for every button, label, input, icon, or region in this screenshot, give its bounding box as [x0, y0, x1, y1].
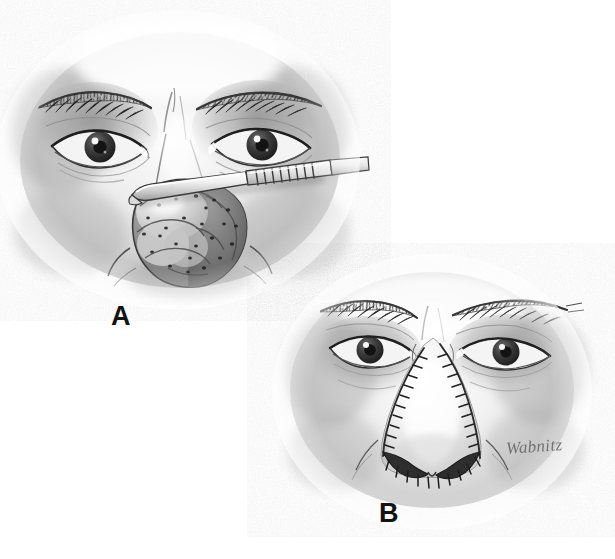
panel-label-b: B: [379, 500, 399, 527]
figure-canvas: A B Wabnitz: [0, 0, 615, 559]
panel-b-illustration: [272, 254, 592, 530]
artist-signature: Wabnitz: [505, 435, 563, 459]
panel-label-a: A: [111, 303, 131, 330]
illustration-plate: [0, 0, 615, 559]
